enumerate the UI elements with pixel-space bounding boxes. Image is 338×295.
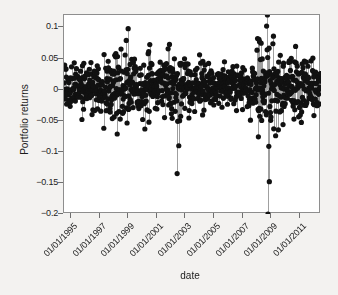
x-tick-mark [127,213,128,218]
y-axis-title: Portfolio returns [19,60,30,180]
y-tick-label: 0.05 [41,53,58,63]
x-tick-mark [242,213,243,218]
y-tick-mark [58,26,63,27]
x-tick-mark [213,213,214,218]
y-tick-label: −0.05 [36,115,58,125]
x-tick-mark [270,213,271,218]
plot-area [63,14,320,213]
y-tick-mark [58,120,63,121]
y-tick-mark [58,213,63,214]
y-tick-label: 0.1 [46,21,58,31]
y-tick-label: −0.15 [36,177,58,187]
x-tick-mark [184,213,185,218]
y-tick-mark [58,89,63,90]
y-tick-mark [58,151,63,152]
x-axis-title: date [130,270,250,281]
series-canvas [64,15,321,214]
y-tick-label: −0.1 [41,146,58,156]
x-tick-mark [156,213,157,218]
y-tick-mark [58,58,63,59]
chart-figure: 0.10.050−0.05−0.1−0.15−0.2 Portfolio ret… [0,0,338,295]
y-tick-mark [58,182,63,183]
x-tick-mark [70,213,71,218]
x-tick-mark [99,213,100,218]
y-tick-label: −0.2 [41,208,58,218]
x-tick-mark [299,213,300,218]
